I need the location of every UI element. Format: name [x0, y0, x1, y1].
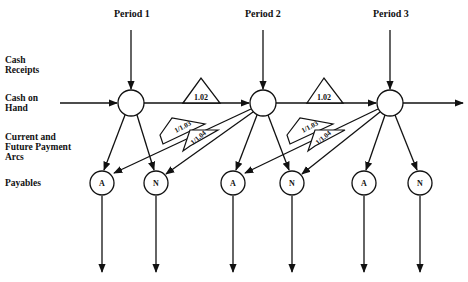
cash-node-period-1 [118, 90, 144, 116]
payable-n-3-label: N [417, 179, 423, 188]
payable-n-1-label: N [153, 179, 159, 188]
network-diagram: 1.02 1.02 1/1.03 1/1.04 1/1.03 1/1.04 A … [0, 0, 468, 282]
payable-a-2-label: A [230, 179, 236, 188]
payable-a-3-label: A [361, 179, 367, 188]
cash-node-period-2 [250, 90, 276, 116]
payable-n-2-label: N [289, 179, 295, 188]
cash-node-period-3 [377, 90, 403, 116]
multiplier-1-02-p1: 1.02 [194, 93, 208, 102]
payable-a-1-label: A [99, 179, 105, 188]
multiplier-1-02-p2: 1.02 [317, 93, 331, 102]
